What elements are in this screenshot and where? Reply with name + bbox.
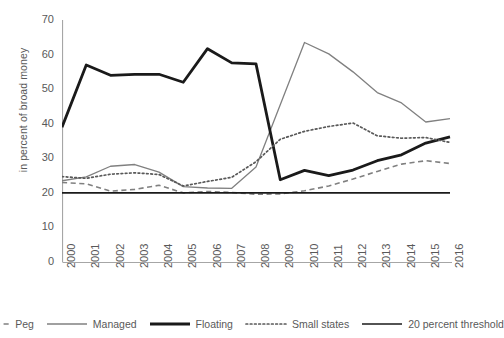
y-axis-tick-30: 30 bbox=[20, 152, 54, 163]
legend-swatch-peg bbox=[0, 320, 10, 328]
y-axis-tick-0: 0 bbox=[20, 256, 54, 267]
y-axis-tick-60: 60 bbox=[20, 49, 54, 60]
y-axis-tick-20: 20 bbox=[20, 187, 54, 198]
series-line-floating bbox=[62, 49, 450, 180]
x-axis-tick-2016: 2016 bbox=[454, 244, 465, 268]
chart-legend: PegManagedFloatingSmall states20 percent… bbox=[0, 312, 472, 336]
legend-label: 20 percent threshold bbox=[408, 318, 504, 330]
y-axis-tick-40: 40 bbox=[20, 118, 54, 129]
legend-swatch-floating bbox=[149, 320, 191, 328]
legend-item-managed[interactable]: Managed bbox=[46, 318, 137, 330]
legend-item-floating[interactable]: Floating bbox=[149, 318, 233, 330]
legend-swatch-managed bbox=[46, 320, 88, 328]
legend-label: Small states bbox=[292, 318, 349, 330]
legend-label: Managed bbox=[93, 318, 137, 330]
y-axis-tick-50: 50 bbox=[20, 83, 54, 94]
legend-item-20-percent-threshold[interactable]: 20 percent threshold bbox=[361, 318, 504, 330]
legend-swatch-20-percent-threshold bbox=[361, 320, 403, 328]
legend-item-small-states[interactable]: Small states bbox=[245, 318, 349, 330]
legend-swatch-small-states bbox=[245, 320, 287, 328]
legend-label: Floating bbox=[196, 318, 233, 330]
legend-item-peg[interactable]: Peg bbox=[0, 318, 34, 330]
legend-label: Peg bbox=[15, 318, 34, 330]
y-axis-tick-10: 10 bbox=[20, 221, 54, 232]
y-axis-tick-70: 70 bbox=[20, 14, 54, 25]
plot-area bbox=[62, 20, 450, 262]
series-line-small-states bbox=[62, 123, 450, 186]
